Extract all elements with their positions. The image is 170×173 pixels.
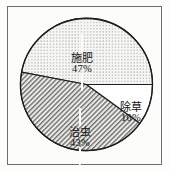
pie-chart-svg bbox=[0, 0, 170, 173]
pie-chart-figure: 施肥 47% 治虫 43% 除草 10% bbox=[0, 0, 170, 173]
pie-slice-shifei[interactable] bbox=[22, 18, 153, 84]
